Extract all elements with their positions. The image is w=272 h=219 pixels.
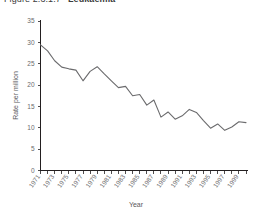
y-tick-label: 0	[31, 167, 35, 174]
x-tick-label: 1977	[70, 173, 84, 189]
y-tick-label: 15	[27, 103, 35, 110]
x-axis-title: Year	[0, 201, 272, 208]
y-tick-label: 20	[27, 81, 35, 88]
x-tick-label: 1975	[56, 173, 70, 189]
x-tick-label: 1995	[197, 173, 211, 189]
y-tick-label: 35	[27, 17, 35, 24]
line-chart: 05101520253035 1971197319751977197919811…	[0, 0, 272, 219]
x-tick-label: 1985	[126, 173, 140, 189]
y-tick-label: 10	[27, 124, 35, 131]
x-tick-label: 1987	[141, 173, 155, 189]
x-tick-label: 1983	[112, 173, 126, 189]
x-tick-label: 1979	[84, 173, 98, 189]
y-tick-label: 25	[27, 60, 35, 67]
x-tick-label: 1981	[98, 173, 112, 189]
data-series-line	[41, 45, 247, 130]
x-tick-label: 1991	[169, 173, 183, 189]
y-tick-label: 5	[31, 145, 35, 152]
x-tick-label: 1989	[155, 173, 169, 189]
chart-svg: 05101520253035 1971197319751977197919811…	[0, 0, 272, 219]
x-tick-label: 1993	[183, 173, 197, 189]
x-tick-label: 1997	[212, 173, 226, 189]
figure-container: Figure 2.3.1.7Leukaemia 05101520253035 1…	[0, 0, 272, 219]
y-axis-tick-labels: 05101520253035	[27, 17, 35, 174]
x-tick-label: 1999	[226, 173, 240, 189]
y-axis-title: Rate per million	[12, 51, 19, 141]
y-tick-label: 30	[27, 39, 35, 46]
x-tick-label: 1973	[41, 173, 55, 189]
x-tick-label: 1971	[27, 173, 41, 189]
x-axis-tick-labels: 1971197319751977197919811983198519871989…	[27, 173, 240, 189]
